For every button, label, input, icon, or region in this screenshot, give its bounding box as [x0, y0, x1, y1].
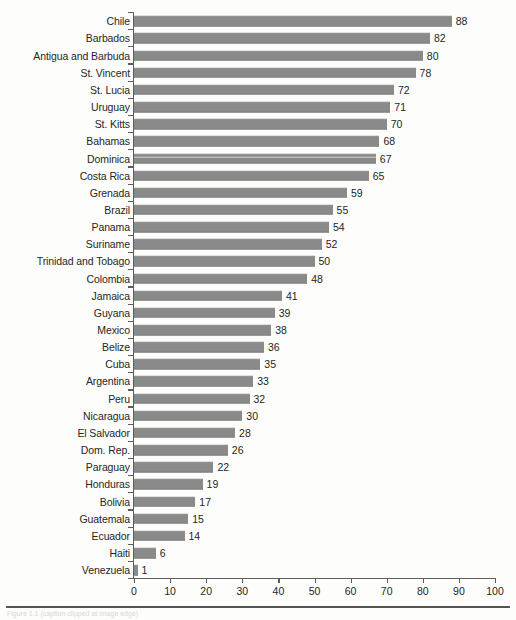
bar-value-label: 39 — [279, 307, 291, 318]
bar-value-label: 88 — [456, 16, 468, 27]
x-axis-tick — [134, 578, 135, 583]
y-axis-tick — [128, 149, 133, 150]
y-axis-tick — [128, 132, 133, 133]
bar — [134, 188, 347, 199]
category-label: Antigua and Barbuda — [33, 50, 130, 61]
bar — [134, 308, 275, 319]
category-label: Dom. Rep. — [81, 445, 130, 456]
bar — [134, 393, 250, 404]
category-label: Ecuador — [92, 530, 130, 541]
bar-row: Venezuela1 — [0, 561, 516, 580]
bar — [134, 565, 138, 576]
bar — [134, 153, 376, 164]
bar-row: Grenada59 — [0, 184, 516, 203]
bar-chart: Chile88Barbados82Antigua and Barbuda80St… — [0, 0, 516, 620]
category-label: Cuba — [105, 359, 130, 370]
bar-value-label: 70 — [391, 119, 403, 130]
bar-value-label: 19 — [207, 479, 219, 490]
category-label: El Salvador — [77, 427, 130, 438]
bar — [134, 531, 185, 542]
category-label: Costa Rica — [80, 170, 130, 181]
y-axis-tick — [128, 269, 133, 270]
bar-row: Barbados82 — [0, 29, 516, 48]
category-label: Nicaragua — [83, 410, 130, 421]
category-label: Brazil — [104, 204, 130, 215]
x-axis-tick — [242, 578, 243, 583]
bar-row: Belize36 — [0, 338, 516, 357]
category-label: Haiti — [109, 548, 130, 559]
bar — [134, 205, 333, 216]
bar-value-label: 33 — [257, 376, 269, 387]
x-axis-tick-label: 90 — [453, 585, 465, 597]
y-axis-tick — [128, 218, 133, 219]
bar-value-label: 80 — [427, 50, 439, 61]
bar — [134, 496, 195, 507]
bar-row: Panama54 — [0, 218, 516, 237]
bar-value-label: 82 — [434, 33, 446, 44]
y-axis-tick — [128, 235, 133, 236]
x-axis-tick-label: 50 — [309, 585, 321, 597]
x-axis-tick-label: 0 — [131, 585, 137, 597]
bar-row: Cuba35 — [0, 355, 516, 374]
bar-value-label: 15 — [192, 513, 204, 524]
bar-value-label: 54 — [333, 222, 345, 233]
bar-value-label: 52 — [326, 239, 338, 250]
category-label: Trinidad and Tobago — [37, 256, 130, 267]
category-label: Argentina — [86, 376, 130, 387]
x-axis-tick-label: 20 — [200, 585, 212, 597]
category-label: St. Vincent — [81, 67, 131, 78]
bar-value-label: 30 — [246, 410, 258, 421]
bar-row: Bolivia17 — [0, 492, 516, 511]
category-label: Panama — [91, 222, 130, 233]
y-axis-line — [133, 12, 134, 578]
x-axis-tick — [387, 578, 388, 583]
y-axis-tick — [128, 115, 133, 116]
footer-divider — [6, 606, 510, 608]
x-axis-tick — [459, 578, 460, 583]
bar-value-label: 48 — [311, 273, 323, 284]
x-axis-tick — [170, 578, 171, 583]
bar — [134, 548, 156, 559]
x-axis-tick — [315, 578, 316, 583]
category-label: Uruguay — [91, 102, 130, 113]
bar-row: Suriname52 — [0, 235, 516, 254]
bar-value-label: 72 — [398, 84, 410, 95]
bar-row: Jamaica41 — [0, 286, 516, 305]
y-axis-tick — [128, 252, 133, 253]
y-axis-tick — [128, 355, 133, 356]
plot-area: Chile88Barbados82Antigua and Barbuda80St… — [0, 12, 516, 578]
category-label: Mexico — [97, 325, 130, 336]
x-axis-tick — [351, 578, 352, 583]
bar — [134, 359, 260, 370]
bar — [134, 462, 213, 473]
bar — [134, 119, 387, 130]
category-label: Paraguay — [86, 462, 130, 473]
bar-row: El Salvador28 — [0, 424, 516, 443]
category-label: St. Kitts — [95, 119, 130, 130]
bar-value-label: 1 — [142, 565, 148, 576]
y-axis-tick — [128, 321, 133, 322]
x-axis-tick-label: 70 — [381, 585, 393, 597]
figure-caption: Figure 1.1 (caption clipped at image edg… — [7, 610, 138, 618]
bar-value-label: 28 — [239, 427, 251, 438]
x-axis-tick-label: 100 — [486, 585, 504, 597]
bar — [134, 290, 282, 301]
bar-row: Colombia48 — [0, 269, 516, 288]
x-axis-tick — [278, 578, 279, 583]
bar-value-label: 68 — [383, 136, 395, 147]
bar-row: Guyana39 — [0, 304, 516, 323]
category-label: Bahamas — [86, 136, 130, 147]
bar-value-label: 26 — [232, 445, 244, 456]
bar — [134, 85, 394, 96]
y-axis-tick — [128, 46, 133, 47]
bar-value-label: 59 — [351, 187, 363, 198]
category-label: Colombia — [86, 273, 130, 284]
x-axis-tick-label: 10 — [164, 585, 176, 597]
y-axis-tick — [128, 166, 133, 167]
x-axis-tick — [206, 578, 207, 583]
bar-row: Bahamas68 — [0, 132, 516, 151]
bar-value-label: 35 — [264, 359, 276, 370]
bar — [134, 445, 228, 456]
bar-row: Guatemala15 — [0, 509, 516, 528]
category-label: Dominica — [87, 153, 130, 164]
